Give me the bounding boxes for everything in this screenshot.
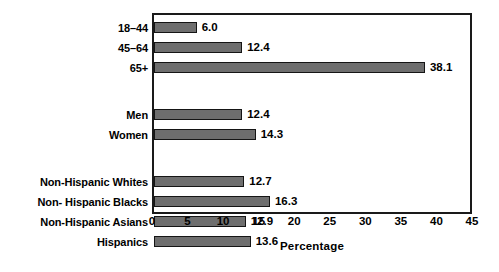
x-tick-label: 0 <box>149 216 155 228</box>
bar <box>154 109 242 120</box>
category-label: 45–64 <box>118 42 148 53</box>
category-label: Women <box>109 129 148 140</box>
bar-row: Women14.3 <box>154 129 474 140</box>
bar-value-label: 12.4 <box>247 109 269 121</box>
x-tick-label: 10 <box>217 216 230 228</box>
bar <box>154 42 242 53</box>
bar-value-label: 6.0 <box>202 22 218 34</box>
bar-chart: 18–446.045–6412.465+38.1Men12.4Women14.3… <box>0 0 499 272</box>
x-tick-label: 5 <box>184 216 190 228</box>
x-tick-label: 15 <box>252 216 265 228</box>
bar-row: 45–6412.4 <box>154 42 474 53</box>
bar-value-label: 12.7 <box>249 176 271 188</box>
category-label: Non-Hispanic Whites <box>40 176 148 187</box>
bar <box>154 176 244 187</box>
bar <box>154 22 197 33</box>
category-label: Non-Hispanic Asians <box>40 216 148 227</box>
x-tick-label: 25 <box>323 216 336 228</box>
x-tick-label: 20 <box>288 216 301 228</box>
bar-value-label: 14.3 <box>261 129 283 141</box>
x-tick-label: 40 <box>430 216 443 228</box>
bar-row: Men12.4 <box>154 109 474 120</box>
bar-row: 18–446.0 <box>154 22 474 33</box>
category-label: 18–44 <box>118 22 148 33</box>
x-axis-title: Percentage <box>152 240 472 252</box>
category-label: Men <box>126 109 148 120</box>
x-tick-label: 45 <box>466 216 479 228</box>
x-axis-tick-labels: 051015202530354045 <box>152 216 472 232</box>
category-label: Non- Hispanic Blacks <box>38 196 148 207</box>
bar-value-label: 16.3 <box>275 196 297 208</box>
bar <box>154 129 256 140</box>
bar-row: 65+38.1 <box>154 62 474 73</box>
plot-area: 18–446.045–6412.465+38.1Men12.4Women14.3… <box>152 13 472 214</box>
x-tick-label: 35 <box>394 216 407 228</box>
bar-row: Non-Hispanic Whites12.7 <box>154 176 474 187</box>
bar-row: Non- Hispanic Blacks16.3 <box>154 196 474 207</box>
bar <box>154 196 270 207</box>
x-tick-label: 30 <box>359 216 372 228</box>
category-label: Hispanics <box>97 236 148 247</box>
bar <box>154 62 425 73</box>
bar-value-label: 38.1 <box>430 62 452 74</box>
category-label: 65+ <box>130 62 148 73</box>
bar-value-label: 12.4 <box>247 42 269 54</box>
